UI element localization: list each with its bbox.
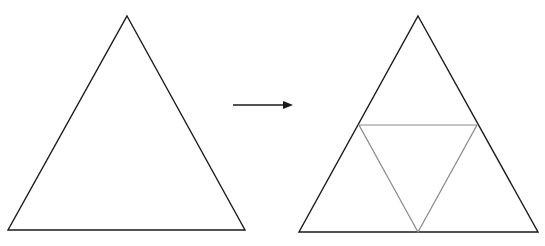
arrow-head-icon: [283, 101, 293, 109]
transform-arrow: [233, 101, 293, 109]
subdivided-triangle-outline: [299, 16, 538, 232]
original-triangle: [8, 16, 245, 230]
midpoint-inner-triangle: [359, 125, 477, 232]
diagram-canvas: [0, 0, 545, 246]
